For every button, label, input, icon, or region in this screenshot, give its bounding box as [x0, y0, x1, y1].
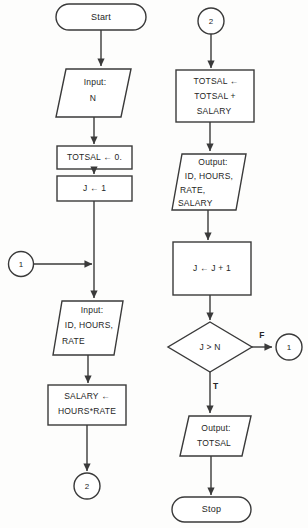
node-input-record-line2: ID, HOURS,: [65, 320, 113, 330]
node-stop-label: Stop: [202, 504, 221, 514]
node-output-totsal-line1: Output:: [201, 423, 230, 433]
node-decision-label: J > N: [199, 342, 220, 352]
node-stop-terminal[interactable]: Stop: [172, 497, 251, 522]
node-j-increment[interactable]: J ← J + 1: [173, 242, 251, 295]
node-j-increment-label: J ← J + 1: [193, 263, 231, 273]
node-totsal-accumulate[interactable]: TOTSAL ← TOTSAL + SALARY: [176, 70, 254, 122]
node-output-totsal-line2: TOTSAL: [197, 438, 231, 448]
node-input-record-line1: Input:: [81, 305, 103, 315]
node-output-record-line4: SALARY: [178, 198, 213, 208]
node-totsal-accumulate-line1: TOTSAL ←: [193, 76, 238, 86]
node-connector-2-out[interactable]: 2: [74, 473, 100, 499]
node-output-record-line2: ID, HOURS,: [185, 171, 233, 181]
node-input-record-line3: RATE: [62, 336, 85, 346]
node-output-record[interactable]: Output: ID, HOURS, RATE, SALARY: [172, 154, 246, 210]
node-j-init[interactable]: J ← 1: [57, 176, 132, 201]
flowchart-canvas: Start Input: N TOTSAL ← 0. J ← 1 1: [0, 0, 308, 528]
node-connector-1-out[interactable]: 1: [276, 334, 302, 360]
node-decision-true-label: T: [213, 381, 219, 391]
node-connector-2-out-label: 2: [85, 482, 90, 491]
node-salary-calc[interactable]: SALARY ← HOURS*RATE: [48, 385, 126, 425]
node-connector-2-in-label: 2: [209, 17, 214, 26]
node-totsal-init[interactable]: TOTSAL ← 0.: [57, 146, 132, 169]
node-connector-1-in-label: 1: [19, 260, 24, 269]
node-connector-1-out-label: 1: [287, 343, 292, 352]
node-output-totsal[interactable]: Output: TOTSAL: [180, 416, 251, 456]
node-input-n[interactable]: Input: N: [56, 69, 131, 117]
flowchart-svg: Start Input: N TOTSAL ← 0. J ← 1 1: [0, 0, 308, 528]
node-decision-false-label: F: [259, 330, 264, 340]
node-decision-j-gt-n[interactable]: J > N: [168, 322, 252, 372]
node-connector-2-in[interactable]: 2: [198, 8, 224, 34]
node-totsal-init-label: TOTSAL ← 0.: [67, 152, 122, 162]
node-salary-calc-line2: HOURS*RATE: [58, 406, 116, 416]
node-input-record[interactable]: Input: ID, HOURS, RATE: [53, 301, 123, 355]
node-start-terminal[interactable]: Start: [56, 4, 146, 30]
node-output-record-line1: Output:: [198, 157, 227, 167]
node-j-init-label: J ← 1: [83, 183, 106, 193]
node-output-record-line3: RATE,: [180, 185, 205, 195]
node-salary-calc-line1: SALARY ←: [64, 391, 110, 401]
node-start-label: Start: [91, 12, 111, 22]
node-input-n-line1: Input:: [84, 77, 106, 87]
node-totsal-accumulate-line2: TOTSAL +: [194, 91, 236, 101]
node-input-n-line2: N: [90, 93, 96, 103]
node-connector-1-in[interactable]: 1: [9, 252, 34, 277]
node-totsal-accumulate-line3: SALARY: [197, 106, 232, 116]
